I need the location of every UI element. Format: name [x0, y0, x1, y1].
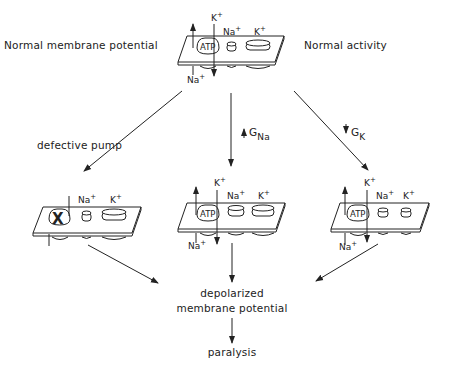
outcome-membrane-potential: membrane potential — [176, 302, 287, 314]
svg-text:K+: K+ — [110, 193, 122, 205]
diagram-canvas: Normal membrane potential Normal activit… — [0, 0, 450, 380]
title-normal-membrane-potential: Normal membrane potential — [4, 39, 158, 51]
label-increased-gna: GNa — [244, 126, 270, 142]
k-label: K+ — [211, 11, 223, 23]
x-mark-icon: X — [52, 210, 64, 228]
membrane-decreased-gk: ATP K+ Na+ Na+ K+ — [331, 176, 429, 252]
blocked-pump: X — [49, 209, 70, 240]
arrow-to-defective — [84, 91, 182, 171]
svg-text:ATP: ATP — [200, 209, 215, 219]
svg-text:Na+: Na+ — [223, 25, 241, 37]
membrane-increased-gna: ATP K+ Na+ Na+ K+ — [178, 176, 285, 251]
svg-text:K+: K+ — [214, 176, 226, 188]
membrane-defective-pump: X Na+ K+ — [33, 193, 141, 246]
svg-text:Na+: Na+ — [78, 193, 96, 205]
svg-text:Na+: Na+ — [188, 239, 206, 251]
svg-text:Na+: Na+ — [376, 189, 394, 201]
svg-text:K+: K+ — [364, 176, 376, 188]
svg-text:Na+: Na+ — [339, 240, 357, 252]
label-defective-pump: defective pump — [37, 139, 122, 151]
svg-text:K+: K+ — [258, 189, 270, 201]
atp-pump: ATP — [197, 205, 219, 236]
title-normal-activity: Normal activity — [304, 39, 387, 51]
svg-text:K+: K+ — [254, 25, 266, 37]
svg-text:GK: GK — [351, 126, 366, 142]
label-decreased-gk: GK — [346, 124, 366, 142]
outcome-paralysis: paralysis — [208, 346, 257, 358]
arrow-defective-to-outcome — [88, 245, 158, 283]
outcome-depolarized: depolarized — [200, 287, 264, 299]
na-label: Na+ — [187, 73, 205, 85]
atp-pump: ATP — [197, 38, 219, 69]
svg-text:Na+: Na+ — [227, 189, 245, 201]
membrane-normal: ATP K+ Na+ Na+ K+ — [178, 11, 284, 85]
svg-text:ATP: ATP — [350, 209, 365, 219]
svg-text:K+: K+ — [403, 189, 415, 201]
svg-text:GNa: GNa — [249, 126, 270, 142]
atp-pump: ATP — [347, 205, 369, 236]
svg-text:ATP: ATP — [200, 42, 215, 52]
